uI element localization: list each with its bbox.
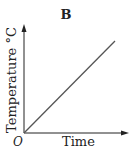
temperature-line [24, 41, 115, 133]
y-axis-arrow-icon [22, 24, 27, 32]
y-axis-label: Temperature °C [5, 27, 19, 133]
plot-area [0, 0, 132, 156]
x-axis-arrow-icon [121, 131, 129, 136]
origin-label: O [13, 136, 23, 149]
x-axis-label: Time [62, 135, 95, 149]
